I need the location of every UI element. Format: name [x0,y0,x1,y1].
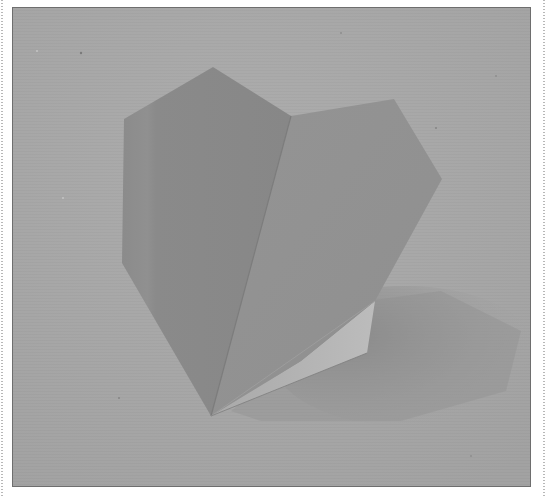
photo-frame [12,7,531,487]
origami-heart-photo [13,8,530,486]
right-dotted-edge [543,0,545,498]
left-dotted-edge [1,0,3,498]
